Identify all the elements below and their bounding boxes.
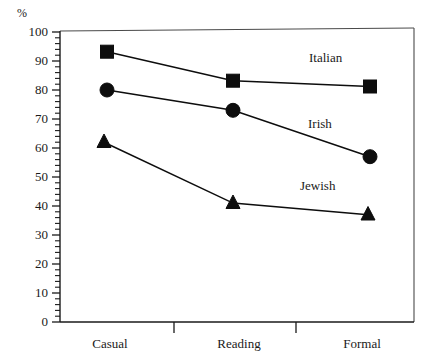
chart-canvas: 100 90 80 70 60 50 40 30 20 10 0 % Casua…	[0, 0, 439, 356]
marker-italian-reading	[227, 74, 240, 87]
marker-irish-reading	[226, 103, 240, 117]
plot-frame	[60, 28, 414, 322]
y-tick-label-100: 100	[29, 24, 49, 39]
y-tick-label-0: 0	[42, 314, 49, 329]
x-tick-label-casual: Casual	[92, 336, 128, 351]
y-tick-label-10: 10	[35, 285, 48, 300]
y-tick-label-70: 70	[35, 111, 48, 126]
marker-irish-formal	[363, 150, 377, 164]
marker-jewish-reading	[226, 195, 240, 209]
y-tick-label-90: 90	[35, 53, 48, 68]
x-tick-label-reading: Reading	[217, 336, 261, 351]
series-label-irish: Irish	[308, 116, 332, 131]
y-tick-label-60: 60	[35, 140, 48, 155]
marker-jewish-formal	[361, 207, 375, 221]
marker-jewish-casual	[97, 134, 111, 148]
frame-top-border	[60, 28, 414, 31]
series-label-italian: Italian	[309, 50, 343, 65]
series-italian: Italian	[101, 45, 377, 93]
marker-italian-formal	[364, 80, 377, 93]
marker-italian-casual	[101, 45, 114, 58]
y-tick-label-80: 80	[35, 82, 48, 97]
y-tick-label-40: 40	[35, 198, 48, 213]
x-tick-label-formal: Formal	[343, 336, 381, 351]
y-axis: 100 90 80 70 60 50 40 30 20 10 0 %	[17, 6, 60, 329]
marker-irish-casual	[100, 83, 114, 97]
series-label-jewish: Jewish	[300, 178, 336, 193]
x-axis: Casual Reading Formal	[60, 322, 414, 351]
line-chart: 100 90 80 70 60 50 40 30 20 10 0 % Casua…	[0, 0, 439, 356]
y-tick-label-30: 30	[35, 227, 48, 242]
series-jewish: Jewish	[97, 134, 375, 220]
y-tick-label-20: 20	[35, 256, 48, 271]
y-axis-unit-label: %	[17, 6, 27, 20]
y-tick-label-50: 50	[35, 169, 48, 184]
series-irish: Irish	[100, 83, 377, 164]
